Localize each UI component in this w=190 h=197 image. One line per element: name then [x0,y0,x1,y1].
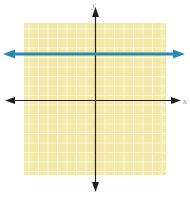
x-axis-label: x [183,98,187,106]
graph-canvas [0,0,190,197]
y-axis-bottom-arrowhead [92,182,99,192]
x-axis-left-arrowhead [5,97,15,104]
plot-line-left-arrowhead [3,50,15,59]
y-axis-label: y [92,2,96,10]
plot-line-right-arrowhead [173,50,185,59]
coordinate-plane-graph: y x [0,0,190,197]
x-axis-right-arrowhead [171,97,181,104]
